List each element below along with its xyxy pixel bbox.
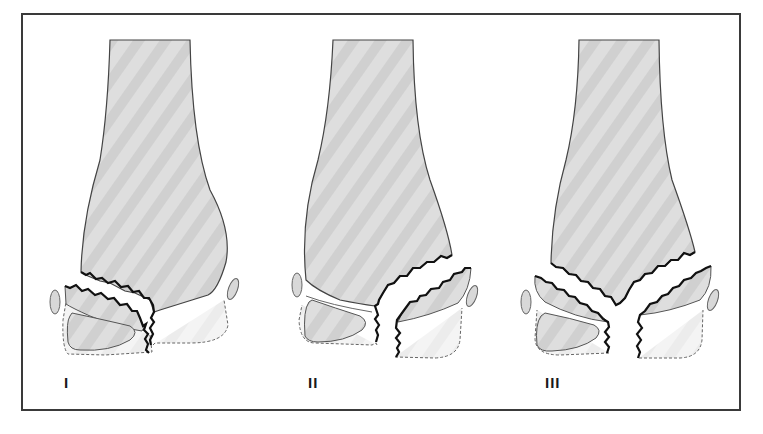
ellipse-right: [225, 277, 241, 301]
epiphysis-outline-lateral: [639, 310, 703, 358]
ellipse-right: [705, 288, 721, 312]
shaft: [551, 40, 695, 305]
ellipse-left: [521, 290, 531, 314]
panel-type-2: [292, 40, 480, 358]
panel-type-1: [50, 40, 241, 355]
panel-label-2: II: [308, 374, 318, 391]
panel-type-3: [521, 40, 721, 358]
panel-label-3: III: [545, 374, 561, 391]
panel-label-1: I: [64, 374, 69, 391]
ellipse-left: [292, 273, 302, 297]
shaft: [81, 40, 227, 312]
ellipse-left: [50, 290, 60, 314]
fracture-diagram: [0, 0, 763, 434]
shaft: [305, 40, 453, 306]
